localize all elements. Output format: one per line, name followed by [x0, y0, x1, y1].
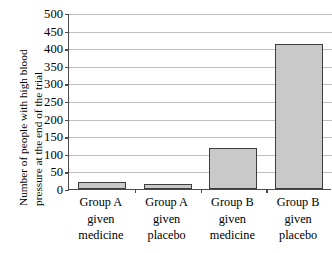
x-axis-category-label-line: Group A	[68, 194, 134, 211]
y-axis-tick-mark	[65, 120, 69, 121]
y-axis-tick-label: 0	[57, 184, 63, 197]
x-axis-tick-mark	[266, 189, 267, 193]
y-axis-tick-mark	[65, 84, 69, 85]
y-axis-tick-mark	[65, 49, 69, 50]
x-axis-category-label-line: given	[134, 211, 200, 228]
y-axis-title: Number of people with high blood pressur…	[0, 0, 44, 210]
x-axis-category-label-line: Group B	[200, 194, 266, 211]
x-axis-tick-mark	[135, 189, 136, 193]
y-axis-tick-label: 200	[44, 113, 63, 126]
x-axis-category-label-line: Group A	[134, 194, 200, 211]
x-axis-category-label: Group Agivenplacebo	[134, 194, 200, 244]
x-axis-category-label: Group Bgivenmedicine	[200, 194, 266, 244]
x-axis-category-label-line: placebo	[265, 227, 331, 244]
y-axis-tick-label: 400	[44, 43, 63, 56]
x-axis-category-label-line: medicine	[200, 227, 266, 244]
y-axis-tick-label: 50	[50, 166, 63, 179]
y-axis-tick-label: 250	[44, 96, 63, 109]
y-axis-tick-mark	[65, 155, 69, 156]
y-axis-tick-mark	[65, 102, 69, 103]
y-axis-tick-label: 500	[44, 8, 63, 21]
x-axis-category-label-line: medicine	[68, 227, 134, 244]
x-axis-category-label-line: given	[265, 211, 331, 228]
x-axis-tick-mark	[201, 189, 202, 193]
gridline	[69, 32, 332, 33]
y-axis-tick-mark	[65, 67, 69, 68]
x-axis-category-label-line: Group B	[265, 194, 331, 211]
x-axis-category-label: Group Bgivenplacebo	[265, 194, 331, 244]
x-axis-category-label: Group Agivenmedicine	[68, 194, 134, 244]
y-axis-title-line-1: Number of people with high blood	[16, 49, 31, 206]
y-axis-tick-mark	[65, 137, 69, 138]
x-axis-labels: Group AgivenmedicineGroup AgivenplaceboG…	[68, 194, 331, 253]
y-axis-tick-mark	[65, 172, 69, 173]
x-axis-category-label-line: placebo	[134, 227, 200, 244]
x-axis-category-label-line: given	[200, 211, 266, 228]
y-axis-tick-mark	[65, 190, 69, 191]
x-axis-category-label-line: given	[68, 211, 134, 228]
y-axis-tick-label: 100	[44, 149, 63, 162]
gridline	[69, 14, 332, 15]
y-axis-tick-label: 450	[44, 25, 63, 38]
bar	[78, 182, 126, 189]
y-axis-tick-label: 350	[44, 61, 63, 74]
bar	[144, 184, 192, 189]
y-axis-tick-mark	[65, 32, 69, 33]
bar	[209, 148, 257, 189]
bar	[275, 44, 323, 189]
plot-area: 500450400350300250200150100500	[68, 14, 331, 190]
y-axis-tick-label: 300	[44, 78, 63, 91]
y-axis-tick-label: 150	[44, 131, 63, 144]
y-axis-tick-mark	[65, 14, 69, 15]
